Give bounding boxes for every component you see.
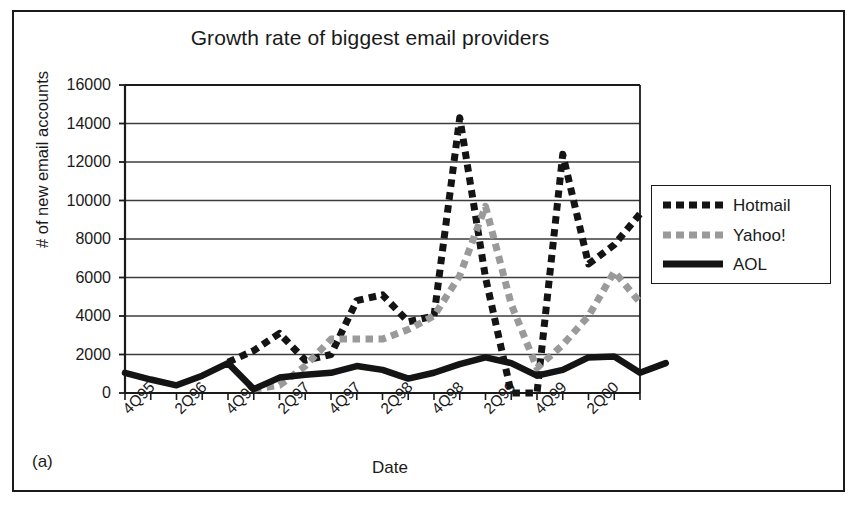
y-tick-label: 16000	[37, 77, 111, 93]
chart-title: Growth rate of biggest email providers	[60, 26, 680, 50]
y-tick-label: 10000	[37, 193, 111, 209]
y-tick-label: 14000	[37, 116, 111, 132]
legend-swatch-yahoo	[662, 231, 724, 239]
y-tick-label: 4000	[37, 308, 111, 324]
y-tick-label: 0	[37, 385, 111, 401]
legend-item-yahoo[interactable]: Yahoo!	[662, 223, 786, 247]
y-tick-label: 12000	[37, 154, 111, 170]
figure-panel: Growth rate of biggest email providers #…	[0, 0, 859, 506]
legend: Hotmail Yahoo! AOL	[651, 185, 831, 284]
y-tick-label: 8000	[37, 231, 111, 247]
legend-label-hotmail: Hotmail	[733, 197, 791, 214]
legend-label-aol: AOL	[733, 256, 767, 273]
y-tick-label: 2000	[37, 347, 111, 363]
legend-swatch-aol	[662, 260, 724, 268]
legend-label-yahoo: Yahoo!	[733, 227, 786, 244]
panel-tag: (a)	[32, 452, 53, 472]
x-axis-label: Date	[140, 458, 640, 478]
legend-item-aol[interactable]: AOL	[662, 252, 767, 276]
y-tick-label: 6000	[37, 270, 111, 286]
legend-item-hotmail[interactable]: Hotmail	[662, 193, 791, 217]
legend-swatch-hotmail	[662, 201, 724, 209]
